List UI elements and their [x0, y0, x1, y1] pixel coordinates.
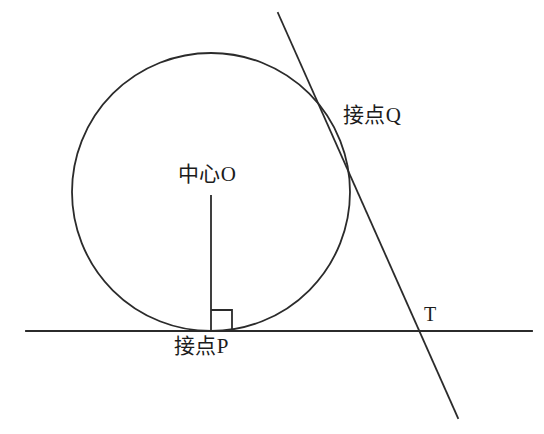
- label-tangent-point-p: 接点P: [174, 336, 229, 357]
- diagram-canvas: [0, 0, 544, 434]
- slanted-tangent-line: [278, 13, 458, 418]
- geometry-diagram: 中心O 接点Q 接点P T: [0, 0, 544, 434]
- label-tangent-point-q: 接点Q: [343, 105, 401, 126]
- label-point-t: T: [424, 304, 437, 324]
- label-center-o: 中心O: [178, 164, 236, 185]
- right-angle-marker: [211, 310, 232, 331]
